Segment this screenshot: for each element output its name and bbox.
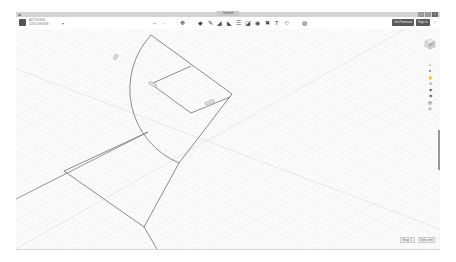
pattern-icon[interactable]: ☰: [236, 20, 242, 27]
units-setting[interactable]: Units: mm: [418, 237, 436, 243]
orbit-icon[interactable]: ●: [429, 69, 431, 73]
app-toolbar: AUTODESK 123D DESIGN ▾ ← → ✥ ◆ ✎ ◢ ◣ ☰ ◪…: [16, 17, 440, 29]
main-tools: ← → ✥ ◆ ✎ ◢ ◣ ☰ ◪ ◉ ✖ T ⟲ ◍: [152, 20, 307, 27]
pan-icon[interactable]: ✋: [428, 76, 433, 80]
origin-marker: ·: [17, 237, 18, 241]
construct-icon[interactable]: ◢: [217, 20, 223, 27]
text-icon[interactable]: T: [274, 20, 280, 27]
scrollbar[interactable]: [438, 130, 440, 170]
home-view-icon[interactable]: ⌂: [429, 63, 431, 67]
snap-setting[interactable]: Snap: 1: [400, 237, 415, 243]
navigation-bar: ⌂ ● ✋ ✕ ◆ ◉ ▤ ◘: [426, 63, 434, 111]
snap-icon[interactable]: ⟲: [283, 20, 289, 27]
zoom-icon[interactable]: ✕: [429, 82, 432, 86]
window-title: Untitled: [217, 11, 239, 16]
status-controls: Snap: 1 Units: mm: [400, 237, 435, 243]
sign-in-button[interactable]: Sign In: [416, 19, 430, 26]
fit-view-icon[interactable]: ◆: [429, 88, 432, 92]
redo-icon[interactable]: →: [162, 20, 168, 27]
chevron-down-icon[interactable]: ▾: [62, 21, 64, 26]
modify-icon[interactable]: ◣: [226, 20, 232, 27]
transform-icon[interactable]: ✥: [180, 20, 186, 27]
account-buttons: Go Premium Sign In ?: [392, 19, 436, 26]
primitives-icon[interactable]: ◆: [198, 20, 204, 27]
combine-icon[interactable]: ◉: [255, 20, 261, 27]
measure-icon[interactable]: ✖: [264, 20, 270, 27]
sketch-icon[interactable]: ✎: [207, 20, 213, 27]
app-logo-icon[interactable]: [19, 19, 26, 26]
help-button[interactable]: ?: [432, 20, 436, 25]
isometric-grid: [16, 29, 440, 249]
grouping-icon[interactable]: ◪: [245, 20, 251, 27]
3d-viewport[interactable]: ⌂ ● ✋ ✕ ◆ ◉ ▤ ◘: [16, 29, 440, 250]
brand-name: AUTODESK 123D DESIGN: [29, 19, 49, 26]
go-premium-button[interactable]: Go Premium: [392, 19, 414, 26]
undo-icon[interactable]: ←: [152, 20, 158, 27]
material-view-icon[interactable]: ◘: [429, 107, 431, 111]
visibility-icon[interactable]: ◉: [429, 94, 432, 98]
view-cube[interactable]: [423, 37, 437, 51]
material-icon[interactable]: ◍: [301, 20, 307, 27]
perspective-icon[interactable]: ▤: [428, 101, 432, 105]
brand-line-2: 123D DESIGN: [29, 23, 49, 27]
